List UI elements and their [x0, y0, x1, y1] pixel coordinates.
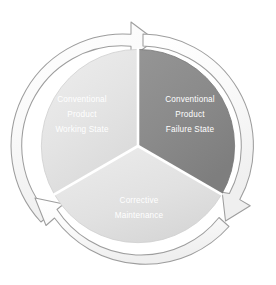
cycle-diagram-svg: Conventional Product Working State Conve… [0, 0, 276, 285]
working-state-line-1: Conventional [57, 95, 107, 104]
working-state-line-2: Product [67, 110, 97, 119]
corrective-maintenance-line-1: Corrective [120, 196, 159, 205]
working-state-line-3: Working State [55, 125, 109, 134]
failure-state-line-1: Conventional [165, 95, 215, 104]
cycle-diagram: Conventional Product Working State Conve… [0, 0, 276, 285]
corrective-maintenance-line-2: Maintenance [115, 211, 164, 220]
failure-state-line-2: Product [175, 110, 205, 119]
failure-state-line-3: Failure State [166, 125, 215, 134]
